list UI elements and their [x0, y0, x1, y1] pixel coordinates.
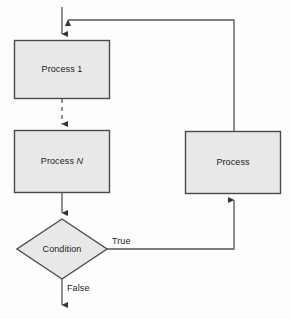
node-condition-label: Condition [17, 244, 107, 254]
node-process-1-label: Process 1 [14, 64, 110, 74]
edge-label-false: False [67, 283, 90, 293]
node-process-right-label: Process [185, 157, 281, 167]
node-process-n-label: Process N [14, 156, 110, 166]
flowchart-canvas: Process 1 Process N Condition Process Tr… [0, 0, 290, 319]
node-process-n-label-variable: N [77, 156, 84, 166]
edge-label-true: True [112, 236, 131, 246]
node-process-n-label-prefix: Process [41, 156, 77, 166]
